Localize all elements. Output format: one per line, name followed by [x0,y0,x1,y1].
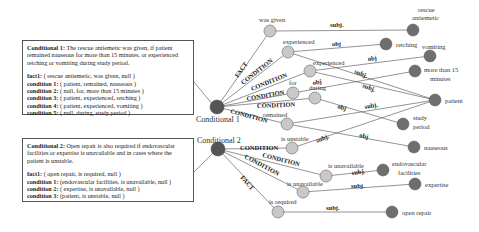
svg-text:experienced: experienced [313,59,345,66]
entity-node [380,38,392,50]
svg-text:vomiting: vomiting [422,43,446,50]
svg-text:for: for [289,79,297,86]
relation-node [272,206,284,218]
svg-text:during: during [309,84,327,91]
svg-text:rescue: rescue [418,6,435,13]
svg-text:endovascular: endovascular [392,160,427,167]
svg-text:experienced: experienced [283,38,315,45]
relation-node [282,46,294,58]
entity-node [408,141,420,153]
root-label: Conditional 1 [196,115,240,124]
svg-text:open repair: open repair [402,209,432,216]
svg-text:subj.: subj. [326,204,340,211]
svg-text:obj: obj [337,102,348,111]
relation-node [264,25,276,37]
svg-text:remained: remained [263,111,288,118]
edge-label-condition: CONDITION [240,144,279,151]
svg-text:obj: obj [332,40,341,47]
svg-text:subj.: subj. [362,81,378,93]
relation-node [286,142,298,154]
svg-text:period: period [413,123,430,130]
entity-node [377,164,389,176]
entity-node [424,50,436,62]
relation-node [297,186,309,198]
svg-text:more than 15: more than 15 [424,66,458,73]
svg-text:is unavailable: is unavailable [287,180,323,187]
svg-text:subj.: subj. [315,132,331,144]
entity-node [409,65,421,77]
entity-node [409,178,421,190]
svg-text:minutes: minutes [430,75,451,82]
svg-text:facilities: facilities [398,169,421,176]
svg-text:antiemetic: antiemetic [412,14,439,21]
svg-text:expertise: expertise [425,181,449,188]
svg-text:subj.: subj. [351,182,365,189]
svg-text:subj.: subj. [330,21,344,28]
relation-node [281,118,293,130]
entity-node [429,94,441,106]
svg-text:obj: obj [367,54,377,62]
svg-text:was given: was given [259,16,286,23]
svg-text:is unstable: is unstable [281,135,309,142]
edge-label-fact: FACT [239,174,256,192]
svg-text:is unavailable: is unavailable [328,162,364,169]
svg-text:patient: patient [445,97,463,104]
svg-text:subj.: subj. [364,101,379,110]
relation-node [309,92,321,104]
knowledge-graph: FACT CONDITION CONDITION CONDITION CONDI… [0,0,479,232]
entity-node [386,206,398,218]
relation-node [304,65,316,77]
relation-node [287,87,299,99]
svg-text:is required: is required [269,198,297,205]
svg-text:subj.: subj. [354,67,370,79]
svg-text:nauseous: nauseous [424,144,448,151]
root-node-conditional-1 [210,100,224,114]
edge-label-condition: CONDITION [257,101,296,109]
root-label: Conditional 2 [197,136,241,145]
entity-node [407,24,419,36]
svg-text:retching: retching [396,41,418,48]
svg-text:obj: obj [359,131,369,140]
svg-text:study: study [413,114,428,121]
entity-node [397,118,409,130]
